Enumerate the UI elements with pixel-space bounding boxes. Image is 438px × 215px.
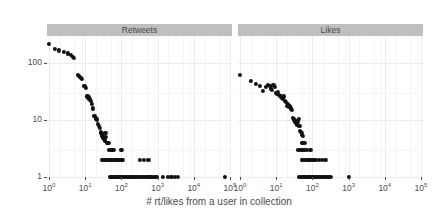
gridline-x-minor xyxy=(226,36,227,177)
data-point xyxy=(119,148,123,152)
gridline-x-minor xyxy=(60,36,61,177)
gridline-x xyxy=(421,36,422,177)
data-point xyxy=(301,134,305,138)
x-tick-label: 101 xyxy=(270,180,283,193)
x-tick-label: 102 xyxy=(306,180,319,193)
y-axis-title: # Tweets xyxy=(0,0,14,42)
gridline-y xyxy=(238,63,423,64)
gridline-x-minor xyxy=(111,36,112,177)
gridline-y xyxy=(47,63,232,64)
gridline-x xyxy=(121,36,122,177)
data-point xyxy=(176,175,180,179)
gridline-x xyxy=(230,36,231,177)
gridline-x-minor xyxy=(396,36,397,177)
gridline-y-minor xyxy=(47,93,232,94)
facet-panel-likes xyxy=(238,36,423,177)
facet-strip-label: Retweets xyxy=(122,25,157,35)
gridline-x-minor xyxy=(338,36,339,177)
gridline-x xyxy=(49,36,50,177)
facet-strip-retweets: Retweets xyxy=(47,24,232,36)
data-point xyxy=(112,148,116,152)
gridline-x-minor xyxy=(374,36,375,177)
data-point xyxy=(104,135,108,139)
gridline-x-minor xyxy=(309,36,310,177)
data-point xyxy=(238,73,242,77)
data-point xyxy=(329,175,333,179)
data-point xyxy=(80,77,84,81)
gridline-x-minor xyxy=(265,36,266,177)
facet-panel-retweets xyxy=(47,36,232,177)
gridline-x-minor xyxy=(82,36,83,177)
data-point xyxy=(223,175,227,179)
x-tick-label: 101 xyxy=(79,180,92,193)
gridline-x-minor xyxy=(302,36,303,177)
y-axis-title-container: # Tweets xyxy=(2,14,16,174)
data-point xyxy=(47,42,51,46)
gridline-y-minor xyxy=(47,150,232,151)
gridline-x-minor xyxy=(154,36,155,177)
data-point xyxy=(249,79,253,83)
gridline-x-minor xyxy=(251,36,252,177)
gridline-x xyxy=(194,36,195,177)
gridline-y-minor xyxy=(238,150,423,151)
gridline-y xyxy=(238,120,423,121)
gridline-y-minor xyxy=(238,93,423,94)
data-point xyxy=(121,158,125,162)
gridline-x-minor xyxy=(219,36,220,177)
data-point xyxy=(323,158,327,162)
gridline-x xyxy=(240,36,241,177)
data-point xyxy=(258,84,262,88)
gridline-y xyxy=(47,120,232,121)
gridline-x-minor xyxy=(359,36,360,177)
data-point xyxy=(303,141,307,145)
data-point xyxy=(161,175,165,179)
gridline-x-minor xyxy=(168,36,169,177)
gridline-x-minor xyxy=(381,36,382,177)
gridline-x-minor xyxy=(205,36,206,177)
gridline-x-minor xyxy=(147,36,148,177)
data-point xyxy=(146,158,150,162)
gridline-x xyxy=(312,36,313,177)
gridline-x xyxy=(385,36,386,177)
gridline-x-minor xyxy=(118,36,119,177)
gridline-x-minor xyxy=(323,36,324,177)
x-tick-label: 103 xyxy=(342,180,355,193)
x-tick-label: 102 xyxy=(115,180,128,193)
gridline-x-minor xyxy=(183,36,184,177)
y-tick-label: 100 xyxy=(28,58,42,67)
gridline-x-minor xyxy=(132,36,133,177)
x-axis-title: # rt/likes from a user in collection xyxy=(0,196,438,207)
gridline-x xyxy=(158,36,159,177)
x-tick-label: 105 xyxy=(415,180,428,193)
gridline-x xyxy=(349,36,350,177)
x-tick-label: 100 xyxy=(43,180,56,193)
data-point xyxy=(84,86,88,90)
gridline-x xyxy=(85,36,86,177)
y-tick-label: 10 xyxy=(33,115,42,124)
x-tick-label: 104 xyxy=(187,180,200,193)
gridline-x-minor xyxy=(273,36,274,177)
gridline-x-minor xyxy=(96,36,97,177)
gridline-x-minor xyxy=(345,36,346,177)
data-point xyxy=(91,106,95,110)
gridline-x-minor xyxy=(190,36,191,177)
y-tick-label: 1 xyxy=(37,172,42,181)
facet-strip-likes: Likes xyxy=(238,24,423,36)
gridline-x xyxy=(276,36,277,177)
data-point xyxy=(290,108,294,112)
x-tick-label: 104 xyxy=(378,180,391,193)
chart-root: # Tweets 110100 RetweetsLikes 1001011021… xyxy=(0,0,438,215)
data-point xyxy=(72,56,76,60)
gridline-x-minor xyxy=(410,36,411,177)
x-tick-label: 103 xyxy=(151,180,164,193)
facet-strip-label: Likes xyxy=(321,25,341,35)
gridline-x-minor xyxy=(417,36,418,177)
x-tick-label: 100 xyxy=(234,180,247,193)
